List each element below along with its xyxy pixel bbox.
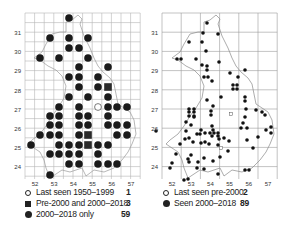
record-dot: [251, 146, 255, 150]
record-dot: [84, 54, 92, 62]
record-dot: [113, 103, 121, 111]
record-dot: [199, 141, 203, 145]
record-dot: [189, 123, 193, 127]
record-dot: [46, 150, 54, 158]
record-dot: [216, 172, 220, 176]
record-dot: [175, 57, 179, 61]
record-dot: [241, 121, 245, 125]
right-legend-row-dot: Seen 2000–2018 89: [161, 198, 281, 209]
record-dot: [84, 112, 92, 120]
record-dot: [113, 160, 121, 168]
record-dot: [65, 44, 73, 52]
record-dot: [210, 124, 214, 128]
record-dot: [55, 54, 63, 62]
right-map: 5253545556573130292827262524: [151, 13, 277, 187]
record-dot: [207, 142, 211, 146]
right-axis-ticks: 5253545556573130292827262524: [151, 30, 272, 187]
open-circle-icon: [23, 190, 33, 196]
record-dot: [226, 149, 230, 153]
y-tick-label: 25: [151, 145, 158, 151]
record-dot: [260, 110, 264, 114]
record-dot: [243, 95, 247, 99]
record-dot: [200, 63, 204, 67]
legend-label: Last seen pre-2000: [174, 187, 244, 198]
record-dot: [183, 137, 187, 141]
record-dot: [174, 152, 178, 156]
record-dot: [178, 142, 182, 146]
y-tick-label: 28: [151, 88, 158, 94]
record-dot: [55, 131, 63, 139]
record-dot: [94, 160, 102, 168]
record-dot: [65, 73, 73, 81]
record-open-marker: [219, 146, 222, 149]
record-dot: [218, 155, 222, 159]
record-square: [104, 83, 112, 91]
record-dot: [187, 136, 191, 140]
record-dot: [75, 63, 83, 71]
legend-label: Pre-2000 and 2000–2018: [36, 198, 128, 209]
left-map: 5253545556573130292827262524: [14, 13, 140, 187]
record-dot: [231, 83, 235, 87]
y-tick-label: 24: [151, 164, 158, 170]
record-dot: [235, 87, 239, 91]
record-dot: [168, 166, 172, 170]
record-dot: [46, 34, 54, 42]
y-tick-label: 31: [151, 30, 158, 36]
record-dot: [104, 103, 112, 111]
record-dot: [222, 136, 226, 140]
record-dot: [65, 14, 73, 22]
record-dot: [244, 107, 248, 111]
y-tick-label: 29: [151, 68, 158, 74]
record-dot: [235, 83, 239, 87]
legend-count: 2: [243, 187, 248, 198]
record-dot: [254, 108, 258, 112]
record-dot: [208, 131, 212, 135]
record-dot: [205, 68, 209, 72]
record-dot: [65, 150, 73, 158]
record-dot: [202, 75, 206, 79]
legend-count: 1: [126, 187, 131, 198]
record-dot: [243, 99, 247, 103]
filled-circle-icon: [161, 200, 171, 207]
record-dot: [187, 114, 191, 118]
record-dot: [217, 137, 221, 141]
record-dot: [46, 131, 54, 139]
record-dot: [75, 141, 83, 149]
y-tick-label: 25: [14, 145, 21, 151]
record-dot: [206, 75, 210, 79]
record-dot: [236, 75, 240, 79]
record-dot: [65, 160, 73, 168]
record-dot: [65, 34, 73, 42]
record-dot: [75, 121, 83, 129]
record-dot: [182, 178, 186, 182]
filled-circle-icon: [23, 211, 33, 218]
record-dot: [75, 160, 83, 168]
record-dot: [210, 79, 214, 83]
record-dot: [113, 131, 121, 139]
record-dot: [199, 128, 203, 132]
record-dot: [269, 125, 273, 129]
record-dot: [205, 64, 209, 68]
record-dot: [205, 21, 209, 25]
y-tick-label: 30: [151, 49, 158, 55]
y-tick-label: 27: [151, 107, 158, 113]
record-dot: [46, 112, 54, 120]
record-dot: [104, 93, 112, 101]
record-dot: [75, 44, 83, 52]
record-dot: [104, 160, 112, 168]
record-dot: [211, 104, 215, 108]
record-dot: [36, 54, 44, 62]
legend-count: 59: [121, 209, 130, 220]
record-dot: [94, 141, 102, 149]
record-dot: [94, 150, 102, 158]
record-dot: [263, 113, 267, 117]
record-dot: [211, 159, 215, 163]
record-dot: [227, 139, 231, 143]
record-dot: [27, 141, 35, 149]
record-dot: [264, 128, 268, 132]
record-dot: [216, 32, 220, 36]
record-dot: [202, 167, 206, 171]
left-legend-row-open: Last seen 1950–1999 1: [23, 187, 143, 198]
record-dot: [46, 121, 54, 129]
record-dot: [219, 95, 223, 99]
